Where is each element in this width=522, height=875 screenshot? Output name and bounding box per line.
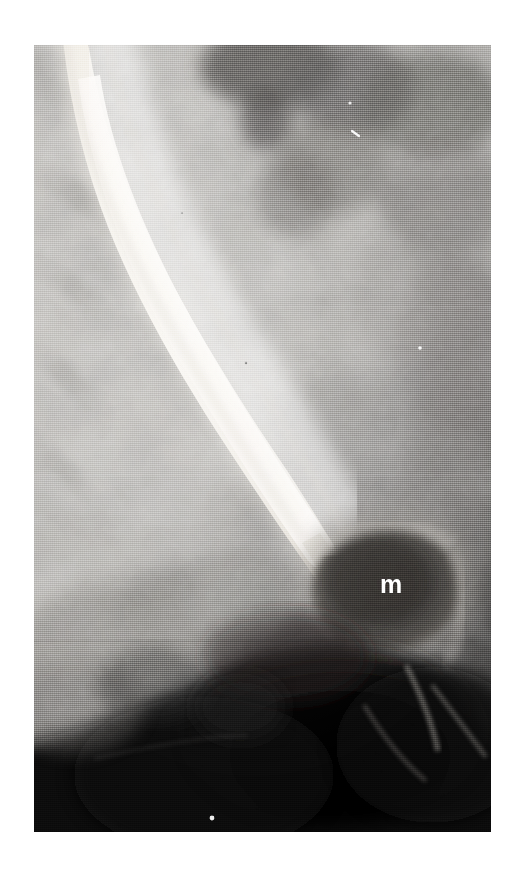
film-grain: [34, 45, 491, 832]
white-speck-lower: [210, 816, 215, 821]
radiograph-canvas: [34, 45, 491, 832]
radiograph-image: m: [34, 45, 491, 832]
white-speck-right: [418, 346, 422, 350]
figure-root: m: [0, 0, 522, 875]
mass-annotation-label: m: [380, 572, 402, 597]
